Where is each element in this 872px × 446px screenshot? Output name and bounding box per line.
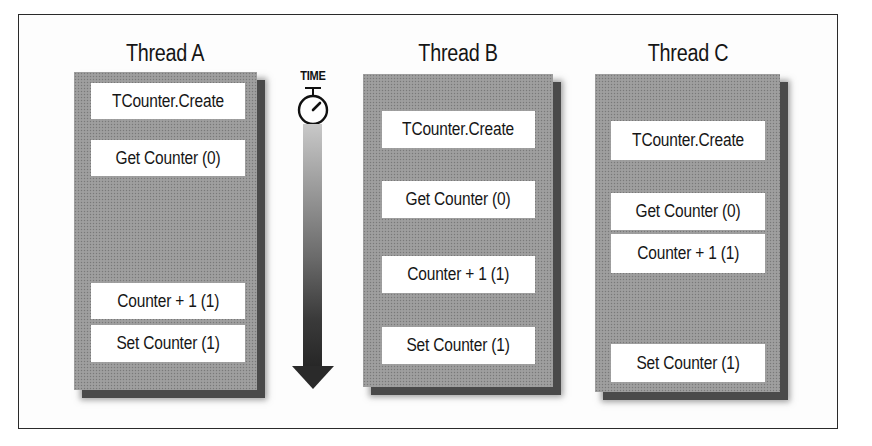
- step-label: Counter + 1 (1): [637, 243, 739, 264]
- thread-c-step-set: Set Counter (1): [611, 344, 765, 382]
- thread-b-step-increment: Counter + 1 (1): [382, 256, 535, 293]
- step-label: Get Counter (0): [636, 201, 741, 222]
- thread-b-step-set: Set Counter (1): [382, 327, 535, 364]
- thread-c-step-create: TCounter.Create: [611, 121, 765, 160]
- thread-c-step-get: Get Counter (0): [611, 193, 765, 230]
- step-label: TCounter.Create: [112, 91, 224, 112]
- step-label: TCounter.Create: [632, 130, 744, 151]
- step-label: Set Counter (1): [407, 335, 510, 356]
- stopwatch-icon: [293, 86, 333, 128]
- time-label: TIME: [299, 68, 328, 83]
- thread-b-title: Thread B: [398, 40, 518, 67]
- thread-c-step-increment: Counter + 1 (1): [611, 234, 765, 273]
- step-label: Get Counter (0): [406, 189, 511, 210]
- thread-b-step-get: Get Counter (0): [382, 181, 535, 218]
- thread-b-step-create: TCounter.Create: [382, 111, 535, 148]
- thread-a-step-get: Get Counter (0): [91, 140, 245, 176]
- step-label: TCounter.Create: [403, 119, 515, 140]
- thread-a-step-create: TCounter.Create: [91, 83, 245, 119]
- thread-c-title: Thread C: [628, 40, 748, 67]
- thread-a-title: Thread A: [105, 40, 225, 67]
- step-label: Get Counter (0): [116, 148, 221, 169]
- time-arrow-head-icon: [292, 366, 334, 390]
- step-label: Counter + 1 (1): [408, 264, 510, 285]
- step-label: Set Counter (1): [116, 333, 219, 354]
- thread-a-step-increment: Counter + 1 (1): [91, 283, 245, 319]
- step-label: Counter + 1 (1): [117, 291, 219, 312]
- thread-a-step-set: Set Counter (1): [91, 325, 245, 362]
- step-label: Set Counter (1): [636, 353, 739, 374]
- time-arrow-shaft: [303, 124, 322, 368]
